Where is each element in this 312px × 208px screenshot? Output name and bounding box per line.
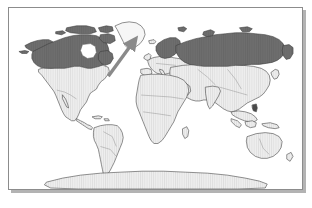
world-map-figure: World distribution map Highlighted range… — [0, 0, 312, 208]
highlight-arctic-archipelago-1 — [66, 26, 97, 34]
region-hispaniola — [104, 119, 109, 121]
region-madagascar — [183, 127, 189, 139]
map-frame — [8, 7, 303, 190]
region-philippines — [252, 104, 257, 112]
world-map-svg — [9, 8, 302, 189]
legend-ocean-label: Ocean — [0, 0, 1, 1]
map-title: World distribution map — [0, 0, 1, 1]
legend-base-label: Other land areas — [0, 0, 1, 1]
legend-highlight-label: Highlighted range (boreal / northern lat… — [0, 0, 1, 1]
region-iceland — [149, 40, 156, 44]
